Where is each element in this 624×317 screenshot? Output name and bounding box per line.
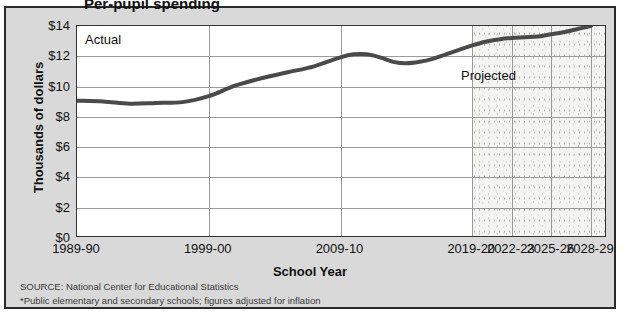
- x-axis-ticks: 1989-90 1999-00 2009-10 2019-20 2022-23 …: [76, 241, 606, 261]
- plot-area: Actual Projected: [76, 25, 606, 237]
- data-line-series: [77, 26, 604, 235]
- source-notes: SOURCE: National Center for Educational …: [20, 280, 320, 308]
- footnote-line: *Public elementary and secondary schools…: [20, 294, 320, 308]
- y-tick-14: $14: [24, 19, 70, 32]
- x-tick-1989-90: 1989-90: [52, 241, 100, 256]
- plot-inner: Actual Projected: [77, 26, 605, 236]
- y-tick-4: $4: [24, 170, 70, 183]
- x-axis-title: School Year: [6, 264, 614, 279]
- actual-band-label: Actual: [85, 32, 121, 47]
- x-tick-2009-10: 2009-10: [316, 241, 364, 256]
- chart-panel: Per-pupil spending Thousands of dollars …: [4, 6, 616, 309]
- x-tick-1999-00: 1999-00: [184, 241, 232, 256]
- y-tick-10: $10: [24, 79, 70, 92]
- y-tick-6: $6: [24, 140, 70, 153]
- chart-figure: Per-pupil spending Thousands of dollars …: [0, 0, 624, 317]
- x-tick-2028-29: 2028-29: [566, 241, 614, 256]
- source-line: SOURCE: National Center for Educational …: [20, 280, 320, 294]
- projected-band-label: Projected: [461, 68, 516, 83]
- y-tick-2: $2: [24, 200, 70, 213]
- y-tick-8: $8: [24, 109, 70, 122]
- chart-title-cutoff: Per-pupil spending: [84, 0, 484, 13]
- y-tick-12: $12: [24, 49, 70, 62]
- y-axis-ticks: $0 $2 $4 $6 $8 $10 $12 $14: [18, 25, 70, 237]
